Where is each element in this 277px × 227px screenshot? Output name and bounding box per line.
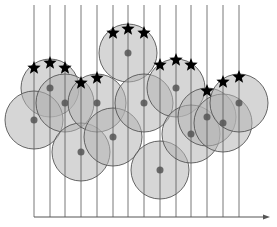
center-dot-1 [31,117,38,124]
center-dot-6 [125,50,132,57]
center-dot-3 [78,149,85,156]
arrow-right-icon [263,215,270,220]
circle-packing-diagram [0,0,277,227]
circles-layer [5,24,268,199]
center-dot-10 [188,131,195,138]
center-dot-7 [141,100,148,107]
center-dot-0 [47,85,54,92]
center-dot-2 [62,100,69,107]
center-dot-9 [173,85,180,92]
center-dot-5 [110,134,117,141]
center-dot-13 [236,100,243,107]
center-dot-12 [220,120,227,127]
center-dot-8 [157,167,164,174]
center-dot-4 [94,100,101,107]
x-axis [34,215,270,220]
center-dot-11 [204,114,211,121]
